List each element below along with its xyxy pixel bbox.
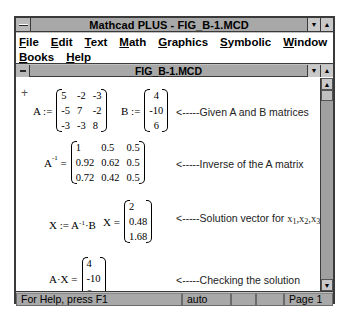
matrix-cell: 6 <box>87 287 101 291</box>
status-panel-4 <box>256 293 284 306</box>
menubar-row-1: FileEditTextMathGraphicsSymbolicWindow <box>19 34 333 49</box>
matrix-cell: 1 <box>76 141 94 154</box>
note-inverse[interactable]: <-----Inverse of the A matrix <box>176 158 304 170</box>
matrix-cell: 4 <box>87 257 101 270</box>
minimize-icon: ▼ <box>311 21 318 28</box>
inverse-label-base: A <box>44 157 52 169</box>
solve-lhs: X := A <box>49 219 79 231</box>
system-menu-button[interactable] <box>16 18 31 31</box>
status-help-text: For Help, press F1 <box>16 293 182 306</box>
menu-graphics[interactable]: Graphics <box>158 36 208 48</box>
matrix-b-definition[interactable]: B := 4-106 <box>121 89 168 132</box>
matrix-cell: 0.92 <box>76 156 94 169</box>
matrix-cell: -2 <box>77 89 86 102</box>
app-titlebar[interactable]: Mathcad PLUS - FIG_B-1.MCD ▼ ▲ <box>16 18 333 32</box>
matrix-cell: -3 <box>77 119 86 132</box>
menubar: FileEditTextMathGraphicsSymbolicWindow B… <box>16 33 333 64</box>
matrix-cell: -2 <box>93 104 102 117</box>
status-page: Page 1 <box>284 293 333 306</box>
matrix-cell: -10 <box>87 272 101 285</box>
matrix-cell: 7 <box>77 104 86 117</box>
matrix-b-label: B := <box>121 105 140 117</box>
menu-symbolic[interactable]: Symbolic <box>220 36 271 48</box>
matrix-cell: 0.62 <box>101 156 119 169</box>
matrix-cell: 0.72 <box>76 171 94 184</box>
menu-edit[interactable]: Edit <box>51 36 73 48</box>
matrix-cell: 1.68 <box>129 230 147 243</box>
system-menu-icon <box>19 24 28 26</box>
matrix-cell: 0.42 <box>101 171 119 184</box>
note-checking[interactable]: <-----Checking the solution <box>176 274 300 286</box>
inverse-label-op: = <box>61 157 67 169</box>
document-system-menu-icon <box>20 70 26 72</box>
minimize-icon: ▼ <box>311 67 318 74</box>
matrix-cell: 8 <box>93 119 102 132</box>
status-mode: auto <box>182 293 231 306</box>
matrix-cell: 0.48 <box>129 215 147 228</box>
arrow-up-icon: ▲ <box>324 81 331 88</box>
scroll-up-button[interactable]: ▲ <box>321 78 333 90</box>
menu-window[interactable]: Window <box>283 36 327 48</box>
document-minimize-button[interactable]: ▼ <box>307 65 320 77</box>
mathcad-app-window: Mathcad PLUS - FIG_B-1.MCD ▼ ▲ FileEditT… <box>14 16 335 304</box>
solution-vector: 20.481.68 <box>124 200 152 243</box>
matrix-a: 5-2-3-57-2-3-38 <box>56 89 106 132</box>
check-label: A·X = <box>49 273 78 285</box>
document-maximize-button[interactable]: ▲ <box>320 65 333 77</box>
note-solution-prefix: <-----Solution vector for <box>176 212 287 224</box>
inverse-label-exponent: -1 <box>52 154 58 162</box>
matrix-cell: 2 <box>129 200 147 213</box>
scroll-down-button[interactable]: ▼ <box>321 279 333 291</box>
variable-x2: x2, <box>299 213 311 224</box>
matrix-cell: -3 <box>61 119 70 132</box>
matrix-cell: 0.5 <box>127 171 140 184</box>
variable-x3: x3 <box>311 213 320 224</box>
menu-math[interactable]: Math <box>119 36 146 48</box>
solve-exponent: -1 <box>79 219 85 227</box>
check-result[interactable]: A·X = 4-106 <box>49 257 106 291</box>
minimize-button[interactable]: ▼ <box>307 18 320 31</box>
matrix-a-label: A := <box>33 105 52 117</box>
document-titlebar[interactable]: FIG_B-1.MCD ▼ ▲ <box>16 65 333 77</box>
matrix-cell: 0.5 <box>127 156 140 169</box>
matrix-cell: -10 <box>149 104 163 117</box>
vertical-scrollbar[interactable]: ▲ ▼ <box>320 78 333 291</box>
check-vector: 4-106 <box>82 257 106 291</box>
matrix-cell: 0.5 <box>101 141 119 154</box>
solution-label: X = <box>103 216 120 228</box>
arrow-down-icon: ▼ <box>324 282 331 289</box>
variable-x1: x1, <box>287 213 299 224</box>
maximize-icon: ▲ <box>324 67 331 74</box>
scroll-thumb[interactable] <box>321 90 333 101</box>
inverse-result[interactable]: A-1 = 10.50.50.920.620.50.720.420.5 <box>44 141 145 184</box>
solution-result[interactable]: X = 20.481.68 <box>103 200 152 243</box>
solve-rhs: ·B <box>85 219 96 231</box>
matrix-a-definition[interactable]: A := 5-2-3-57-2-3-38 <box>33 89 107 132</box>
crosshair-cursor-icon: + <box>21 86 28 100</box>
matrix-cell: 0.5 <box>127 141 140 154</box>
matrix-cell: -5 <box>61 104 70 117</box>
maximize-icon: ▲ <box>324 21 331 28</box>
worksheet-area[interactable]: + A := 5-2-3-57-2-3-38 B := 4-106 <-----… <box>16 78 320 291</box>
matrix-cell: 4 <box>154 89 159 102</box>
menu-help[interactable]: Help <box>66 51 91 63</box>
matrix-cell: 5 <box>61 89 70 102</box>
menu-text[interactable]: Text <box>85 36 108 48</box>
solve-definition[interactable]: X := A-1·B <box>49 219 96 231</box>
status-panel-3 <box>231 293 256 306</box>
matrix-b: 4-106 <box>144 89 168 132</box>
document-system-menu-button[interactable] <box>16 65 30 77</box>
status-bar: For Help, press F1 auto Page 1 <box>16 293 333 306</box>
inverse-matrix: 10.50.50.920.620.50.720.420.5 <box>71 141 145 184</box>
document-window: FIG_B-1.MCD ▼ ▲ + A := 5-2-3-57-2-3-38 B… <box>16 65 333 292</box>
menu-file[interactable]: File <box>19 36 39 48</box>
solution-variables: x1,x2,x3 <box>287 213 320 224</box>
document-title: FIG_B-1.MCD <box>30 65 307 77</box>
menu-books[interactable]: Books <box>19 51 54 63</box>
maximize-button[interactable]: ▲ <box>320 18 333 31</box>
matrix-cell: -3 <box>93 89 102 102</box>
app-title: Mathcad PLUS - FIG_B-1.MCD <box>31 19 307 31</box>
matrix-cell: 6 <box>154 119 159 132</box>
note-given-matrices[interactable]: <-----Given A and B matrices <box>176 106 309 118</box>
note-solution-vector[interactable]: <-----Solution vector for x1,x2,x3 <box>176 212 320 224</box>
